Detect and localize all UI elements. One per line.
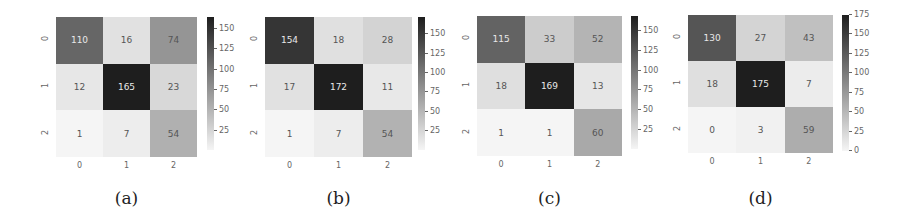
colorbar-tick-label: 75 <box>214 85 229 94</box>
heatmap-cell: 0 <box>688 107 736 153</box>
heatmap-cell: 169 <box>525 63 573 110</box>
y-tick-label: 0 <box>250 34 259 44</box>
heatmap-cell: 18 <box>688 61 736 107</box>
heatmap-cell: 175 <box>736 61 784 107</box>
colorbar-tick-label: 75 <box>425 87 440 96</box>
y-tick-label: 0 <box>41 34 50 44</box>
colorbar-tick-label: 100 <box>425 68 445 77</box>
heatmap-cell: 28 <box>363 17 412 64</box>
heatmap-cell: 165 <box>103 64 150 111</box>
heatmap-cell: 43 <box>785 15 833 61</box>
y-tick-label: 2 <box>673 124 682 134</box>
colorbar-tick-label: 150 <box>425 29 445 38</box>
heatmap-cell: 7 <box>314 110 363 157</box>
y-tick-label: 2 <box>462 126 471 136</box>
colorbar-tick-label: 50 <box>638 105 653 114</box>
heatmap-cell: 74 <box>150 17 197 64</box>
heatmap-cell: 1 <box>477 109 525 156</box>
heatmap-cell: 13 <box>574 63 622 110</box>
y-tick-label: 0 <box>462 33 471 43</box>
colorbar-tick-label: 125 <box>849 49 869 58</box>
heatmap-cell: 7 <box>785 61 833 107</box>
colorbar-tick-label: 75 <box>638 85 653 94</box>
colorbar-tick-label: 125 <box>214 44 234 53</box>
x-tick-label: 2 <box>799 157 819 166</box>
heatmap-cell: 16 <box>103 17 150 64</box>
x-tick-label: 1 <box>540 160 560 169</box>
colorbar-tick-label: 0 <box>849 146 859 155</box>
colorbar <box>207 17 214 150</box>
heatmap-cell: 60 <box>574 109 622 156</box>
x-tick-label: 0 <box>70 161 90 170</box>
x-tick-label: 1 <box>751 157 771 166</box>
heatmap-cell: 1 <box>56 110 103 157</box>
heatmap-cell: 17 <box>265 64 314 111</box>
subfigure-caption: (d) <box>731 188 791 208</box>
heatmap-cell: 172 <box>314 64 363 111</box>
heatmap-cell: 18 <box>477 63 525 110</box>
colorbar <box>842 15 849 151</box>
y-tick-label: 2 <box>250 127 259 137</box>
colorbar <box>418 17 425 150</box>
colorbar-tick-label: 75 <box>849 88 864 97</box>
colorbar-tick-label: 150 <box>638 26 658 35</box>
colorbar-tick-label: 150 <box>214 24 234 33</box>
colorbar-tick-label: 125 <box>425 49 445 58</box>
x-tick-label: 0 <box>491 160 511 169</box>
colorbar-tick-label: 25 <box>849 127 864 136</box>
heatmap-cell: 154 <box>265 17 314 64</box>
x-tick-label: 1 <box>117 161 137 170</box>
heatmap-cell: 27 <box>736 15 784 61</box>
x-tick-label: 0 <box>280 161 300 170</box>
colorbar <box>631 16 638 149</box>
subfigure-caption: (c) <box>520 188 580 208</box>
y-tick-label: 1 <box>250 81 259 91</box>
subfigure-caption: (a) <box>97 188 157 208</box>
heatmap-cell: 18 <box>314 17 363 64</box>
colorbar-tick-label: 50 <box>425 107 440 116</box>
heatmap-cell: 130 <box>688 15 736 61</box>
colorbar-tick-label: 150 <box>849 29 869 38</box>
colorbar-tick-label: 100 <box>849 68 869 77</box>
colorbar-tick-label: 25 <box>425 126 440 135</box>
colorbar-tick-label: 100 <box>638 66 658 75</box>
heatmap-grid: 115335218169131160 <box>477 16 622 156</box>
heatmap-grid: 154182817172111754 <box>265 17 412 157</box>
y-tick-label: 1 <box>462 80 471 90</box>
colorbar-tick-label: 25 <box>638 125 653 134</box>
heatmap-cell: 110 <box>56 17 103 64</box>
heatmap-cell: 59 <box>785 107 833 153</box>
colorbar-tick-label: 100 <box>214 65 234 74</box>
heatmap-grid: 13027431817570359 <box>688 15 833 153</box>
colorbar-tick-label: 50 <box>214 105 229 114</box>
heatmap-cell: 52 <box>574 16 622 63</box>
y-tick-label: 2 <box>41 127 50 137</box>
y-tick-label: 1 <box>673 78 682 88</box>
colorbar-tick-label: 50 <box>849 107 864 116</box>
heatmap-cell: 1 <box>265 110 314 157</box>
colorbar-tick-label: 175 <box>849 10 869 19</box>
heatmap-cell: 7 <box>103 110 150 157</box>
x-tick-label: 0 <box>702 157 722 166</box>
x-tick-label: 2 <box>378 161 398 170</box>
subfigure-caption: (b) <box>309 188 369 208</box>
heatmap-cell: 115 <box>477 16 525 63</box>
heatmap-cell: 3 <box>736 107 784 153</box>
y-tick-label: 0 <box>673 32 682 42</box>
colorbar-tick-label: 125 <box>638 46 658 55</box>
heatmap-cell: 23 <box>150 64 197 111</box>
heatmap-cell: 54 <box>150 110 197 157</box>
heatmap-cell: 1 <box>525 109 573 156</box>
x-tick-label: 1 <box>329 161 349 170</box>
x-tick-label: 2 <box>588 160 608 169</box>
y-tick-label: 1 <box>41 81 50 91</box>
colorbar-tick-label: 25 <box>214 126 229 135</box>
x-tick-label: 2 <box>164 161 184 170</box>
heatmap-cell: 54 <box>363 110 412 157</box>
heatmap-cell: 33 <box>525 16 573 63</box>
heatmap-cell: 11 <box>363 64 412 111</box>
heatmap-grid: 110167412165231754 <box>56 17 197 157</box>
heatmap-cell: 12 <box>56 64 103 111</box>
